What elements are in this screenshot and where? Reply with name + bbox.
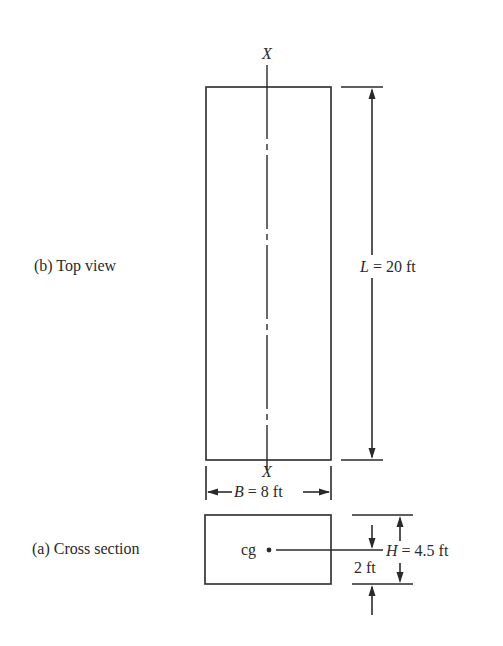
cg-offset-arrowhead-lower [369,585,376,596]
height-dimension-label: H = 4.5 ft [386,543,448,559]
cross-section-caption: (a) Cross section [32,541,140,557]
breadth-dimension-label: B = 8 ft [234,484,283,500]
cg-offset-label: 2 ft [354,560,376,576]
height-symbol: H [386,542,398,559]
length-value: = 20 ft [373,258,416,275]
b-arrowhead-left [207,489,218,496]
top-view-outline [206,87,331,460]
length-dimension-label: L = 20 ft [360,259,416,275]
height-value: = 4.5 ft [402,542,449,559]
top-view-caption: (b) Top view [34,258,116,274]
b-arrowhead-right [319,489,330,496]
cg-label: cg [241,542,256,558]
breadth-value: = 8 ft [248,483,283,500]
axis-label-x-top: X [262,46,272,62]
breadth-symbol: B [234,483,244,500]
h-arrowhead-top [397,516,404,527]
axis-label-x-bottom: X [262,464,272,480]
h-arrowhead-bottom [397,572,404,583]
cg-offset-arrowhead-upper [369,538,376,549]
length-symbol: L [360,258,369,275]
l-arrowhead-top [369,88,376,99]
l-arrowhead-bottom [369,448,376,459]
cg-dot-icon [267,548,272,553]
